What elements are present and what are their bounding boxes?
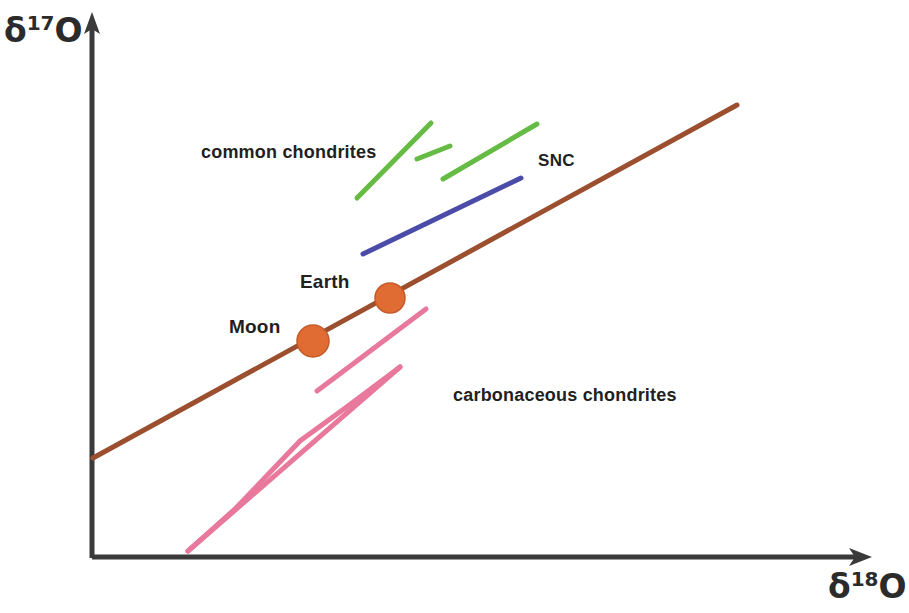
series-snc: [363, 178, 521, 254]
label-earth: Earth: [300, 272, 350, 291]
x-axis-title-symbol: δ: [828, 567, 851, 606]
label-carbonaceous-chondrites: carbonaceous chondrites: [453, 386, 677, 404]
series-common-chondrites: [357, 123, 537, 198]
snc-segment-1: [363, 178, 521, 254]
y-axis-title-symbol: δ: [4, 11, 27, 50]
earth-marker: [375, 283, 405, 313]
label-common-chondrites: common chondrites: [201, 143, 376, 161]
common-chondrites-segment-3: [443, 124, 537, 179]
x-axis-title: δ18O: [828, 570, 907, 603]
figure-canvas: δ17O δ18O common chondrites SNC Earth Mo…: [0, 0, 909, 613]
axis-group: [84, 12, 872, 566]
isotope-plot: [0, 0, 909, 613]
y-axis-title-superscript: 17: [27, 11, 55, 35]
moon-marker: [297, 325, 329, 357]
y-axis-title: δ17O: [4, 14, 83, 47]
common-chondrites-segment-2: [417, 146, 450, 159]
x-axis-title-superscript: 18: [851, 567, 879, 591]
label-moon: Moon: [229, 317, 280, 336]
carbonaceous-chondrites-segment-1: [317, 309, 426, 391]
carbonaceous-chondrites-segment-3: [188, 367, 400, 551]
x-axis-title-element: O: [879, 567, 907, 606]
y-axis-title-element: O: [55, 11, 83, 50]
label-snc: SNC: [538, 152, 575, 169]
